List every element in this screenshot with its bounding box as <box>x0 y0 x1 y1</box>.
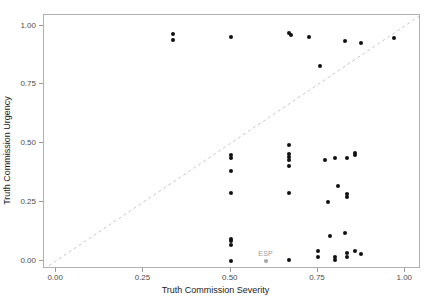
x-axis-tick <box>317 268 318 272</box>
y-axis-tick-label: 0.75 <box>20 79 36 88</box>
x-axis-tick <box>230 268 231 272</box>
y-axis-tick <box>39 25 43 26</box>
x-axis-tick <box>55 268 56 272</box>
scatter-plot-figure: ESP 0.000.250.500.751.000.000.250.500.75… <box>0 0 431 301</box>
y-axis-tick-label: 0.00 <box>20 255 36 264</box>
y-axis-tick-label: 1.00 <box>20 20 36 29</box>
y-axis-tick-label: 0.25 <box>20 196 36 205</box>
x-axis-tick-label: 0.25 <box>135 273 151 282</box>
y-axis-tick-label: 0.50 <box>20 138 36 147</box>
plot-panel: ESP <box>43 14 420 268</box>
data-point-label-esp: ESP <box>258 250 273 257</box>
x-axis-tick-label: 0.75 <box>309 273 325 282</box>
x-axis-tick-label: 0.00 <box>47 273 63 282</box>
x-axis-tick <box>142 268 143 272</box>
y-axis-tick <box>39 201 43 202</box>
y-axis-tick <box>39 142 43 143</box>
point-labels-layer: ESP <box>44 15 419 267</box>
x-axis-tick-label: 0.50 <box>222 273 238 282</box>
y-axis-label: Truth Commission Urgency <box>0 0 14 301</box>
y-axis-tick <box>39 260 43 261</box>
x-axis-tick-label: 1.00 <box>396 273 412 282</box>
x-axis-label: Truth Commission Severity <box>0 285 431 295</box>
y-axis-tick <box>39 83 43 84</box>
x-axis-tick <box>404 268 405 272</box>
